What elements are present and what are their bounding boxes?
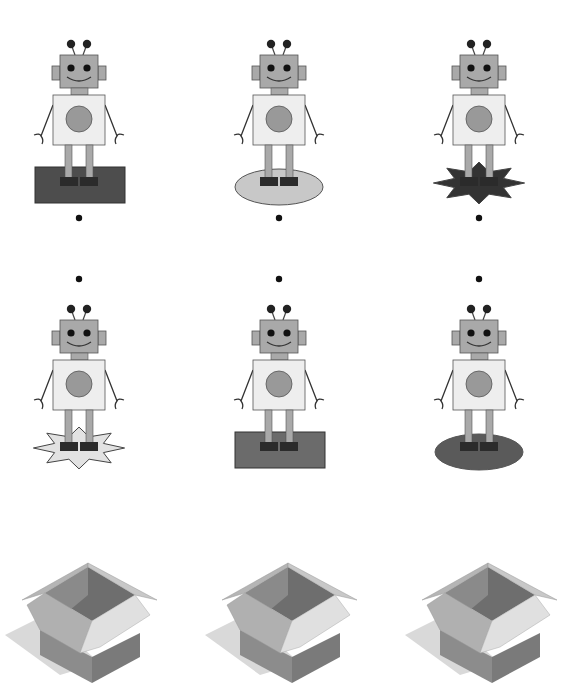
- robot-eye-right: [83, 64, 90, 71]
- robot-foot-left: [260, 177, 278, 186]
- robot-foot-right: [480, 177, 498, 186]
- robot-chest-circle: [466, 371, 492, 397]
- robot-figure-2: [200, 0, 360, 240]
- robot-chest-circle: [266, 106, 292, 132]
- robot-foot-left: [60, 442, 78, 451]
- open-box-2: [200, 555, 370, 685]
- robot: [234, 305, 324, 451]
- robot-eye-right: [283, 329, 290, 336]
- robot: [234, 40, 324, 186]
- robot-figure-1: [0, 0, 160, 240]
- position-dot: [76, 276, 82, 282]
- antenna-ball-icon: [83, 305, 91, 313]
- robot-arm-left: [34, 105, 53, 144]
- robot-foot-right: [80, 177, 98, 186]
- robot-eye-right: [483, 329, 490, 336]
- robot-foot-left: [60, 177, 78, 186]
- robot-foot-right: [280, 442, 298, 451]
- robot-arm-right: [505, 105, 524, 144]
- robot-figure-4: [0, 265, 160, 505]
- robot-head: [60, 320, 98, 353]
- position-dot: [476, 276, 482, 282]
- antenna-ball-icon: [67, 40, 75, 48]
- robot-arm-right: [105, 370, 124, 409]
- robot-leg-right: [286, 145, 293, 180]
- robot-leg-left: [265, 145, 272, 180]
- robot-eye-right: [83, 329, 90, 336]
- robot-arm-left: [34, 370, 53, 409]
- robot-figure-3: [400, 0, 560, 240]
- position-dot: [276, 276, 282, 282]
- robot-head: [460, 320, 498, 353]
- robot-foot-left: [260, 442, 278, 451]
- robot-ear-right: [98, 331, 106, 345]
- robot-arm-left: [434, 370, 453, 409]
- robot-foot-right: [80, 442, 98, 451]
- robot-neck: [71, 88, 88, 95]
- robot-arm-right: [105, 105, 124, 144]
- open-box-1: [0, 555, 170, 685]
- antenna-ball-icon: [467, 305, 475, 313]
- robot-eye-left: [467, 64, 474, 71]
- robot-eye-left: [467, 329, 474, 336]
- robot-foot-left: [460, 442, 478, 451]
- robot-eye-left: [267, 64, 274, 71]
- robot-foot-right: [280, 177, 298, 186]
- robot-arm-left: [434, 105, 453, 144]
- position-dot: [476, 215, 482, 221]
- position-dot: [276, 215, 282, 221]
- antenna-ball-icon: [283, 305, 291, 313]
- robot-neck: [271, 353, 288, 360]
- robot-neck: [271, 88, 288, 95]
- antenna-ball-icon: [483, 40, 491, 48]
- robot-eye-left: [67, 329, 74, 336]
- robot-ear-left: [252, 66, 260, 80]
- robot-ear-right: [498, 66, 506, 80]
- robot-ear-right: [98, 66, 106, 80]
- open-box-3: [400, 555, 570, 685]
- robot-head: [60, 55, 98, 88]
- robot-ear-left: [452, 331, 460, 345]
- robot-figure-5: [200, 265, 360, 505]
- star-platform: [33, 427, 124, 469]
- robot-foot-right: [480, 442, 498, 451]
- robot-leg-left: [465, 145, 472, 180]
- robot-neck: [71, 353, 88, 360]
- antenna-ball-icon: [483, 305, 491, 313]
- robot-leg-left: [265, 410, 272, 445]
- robot-neck: [471, 88, 488, 95]
- robot-leg-left: [465, 410, 472, 445]
- ellipse-platform: [435, 434, 523, 470]
- star-platform: [433, 162, 524, 204]
- robot-leg-right: [286, 410, 293, 445]
- robot-ear-left: [452, 66, 460, 80]
- robot-arm-right: [305, 105, 324, 144]
- robot-head: [260, 55, 298, 88]
- robot-ear-left: [252, 331, 260, 345]
- robot-eye-right: [283, 64, 290, 71]
- antenna-ball-icon: [467, 40, 475, 48]
- robot-leg-right: [486, 410, 493, 445]
- robot-chest-circle: [66, 106, 92, 132]
- robot-neck: [471, 353, 488, 360]
- robot-eye-left: [67, 64, 74, 71]
- robot-ear-right: [498, 331, 506, 345]
- robot-leg-right: [86, 410, 93, 445]
- robot-ear-left: [52, 331, 60, 345]
- antenna-ball-icon: [67, 305, 75, 313]
- robot-head: [260, 320, 298, 353]
- robot-figure-6: [400, 265, 560, 505]
- robot-foot-left: [460, 177, 478, 186]
- robot-arm-right: [505, 370, 524, 409]
- robot-chest-circle: [266, 371, 292, 397]
- robot-leg-right: [86, 145, 93, 180]
- robot-leg-left: [65, 145, 72, 180]
- robot-arm-left: [234, 105, 253, 144]
- position-dot: [76, 215, 82, 221]
- antenna-ball-icon: [83, 40, 91, 48]
- robot-leg-right: [486, 145, 493, 180]
- robot-arm-right: [305, 370, 324, 409]
- robot-ear-right: [298, 66, 306, 80]
- antenna-ball-icon: [267, 40, 275, 48]
- antenna-ball-icon: [267, 305, 275, 313]
